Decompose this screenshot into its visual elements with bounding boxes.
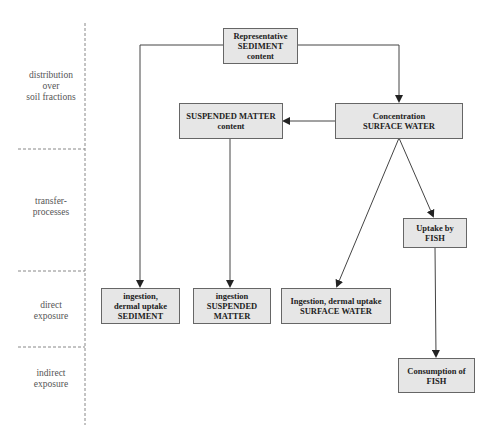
node-sediment-content: Representative SEDIMENT content [223, 28, 298, 64]
stage-label-transfer: transfer- processes [11, 196, 91, 218]
node-surface-water-concentration: Concentration SURFACE WATER [335, 103, 463, 139]
stage-label-direct-exposure: direct exposure [11, 300, 91, 322]
node-uptake-fish: Uptake by FISH [403, 218, 467, 248]
stage-label-indirect-exposure: indirect exposure [11, 368, 91, 390]
node-suspended-matter-content: SUSPENDED MATTER content [179, 103, 283, 139]
node-ingestion-suspended-matter: ingestion SUSPENDED MATTER [193, 288, 271, 324]
node-consumption-fish: Consumption of FISH [398, 358, 475, 393]
node-ingestion-surface-water: Ingestion, dermal uptake SURFACE WATER [281, 288, 391, 324]
node-ingestion-sediment: ingestion, dermal uptake SEDIMENT [101, 288, 180, 324]
stage-label-distribution: distribution over soil fractions [11, 70, 91, 103]
